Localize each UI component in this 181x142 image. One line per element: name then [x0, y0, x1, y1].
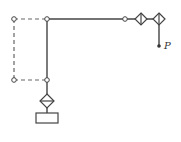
- linkage-diagram: [0, 0, 181, 142]
- dashed-links: [14, 19, 47, 80]
- joint-circle-icon: [12, 78, 17, 83]
- joint-circle-icon: [45, 17, 50, 22]
- base-block: [36, 113, 58, 123]
- point-label: P: [164, 40, 171, 51]
- diamond-joint-icon: [40, 94, 54, 108]
- joint-circle-icon: [123, 17, 128, 22]
- revolute-joints: [12, 17, 128, 83]
- solid-links: [47, 19, 159, 113]
- joint-circle-icon: [45, 78, 50, 83]
- diamond-joint-icon: [153, 13, 165, 25]
- end-point-dot: [157, 44, 161, 48]
- joint-circle-icon: [12, 17, 17, 22]
- diamond-joint-icon: [135, 13, 147, 25]
- diamond-joints: [40, 13, 165, 108]
